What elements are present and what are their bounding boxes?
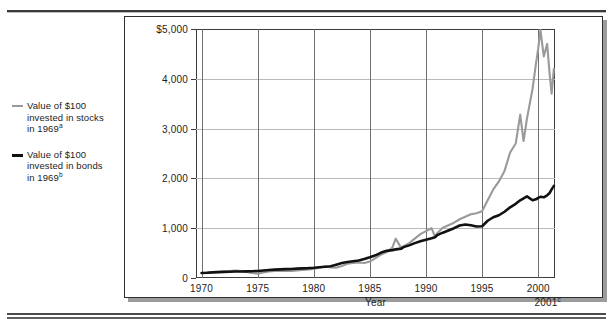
- plot-area: $5,0004,0003,0002,0001,0000 197019751980…: [196, 29, 555, 278]
- y-axis-tick-label: 3,000: [162, 123, 188, 134]
- x-axis-tick-label: 1985: [358, 283, 381, 294]
- series-line: [202, 30, 554, 274]
- legend-label-bonds: Value of $100invested in bondsin 1969b: [27, 149, 103, 184]
- page-rule-bottom-1: [7, 313, 606, 315]
- y-axis-tick-label: 1,000: [162, 223, 188, 234]
- y-axis-tick-mark: [191, 228, 196, 229]
- y-axis-tick-mark: [191, 178, 196, 179]
- x-axis-end-label: 2001c: [535, 297, 562, 308]
- legend-bonds-line1: Value of $100: [27, 149, 86, 160]
- y-axis-tick-label: $5,000: [156, 24, 188, 35]
- y-axis-tick-mark: [191, 278, 196, 279]
- y-axis-tick-mark: [191, 29, 196, 30]
- y-axis-tick-label: 0: [182, 273, 188, 284]
- page-rule-bottom-2: [7, 317, 606, 319]
- x-axis-tick-label: 1975: [246, 283, 269, 294]
- legend-stocks-line2: invested in stocks: [27, 112, 104, 123]
- chart-legend: Value of $100invested in stocksin 1969a …: [12, 100, 130, 198]
- chart-box: $5,0004,0003,0002,0001,0000 197019751980…: [124, 16, 603, 298]
- figure-page: Value of $100invested in stocksin 1969a …: [0, 0, 613, 322]
- legend-bonds-line2: invested in bonds: [27, 160, 103, 171]
- legend-bonds-line3: in 1969: [27, 172, 59, 183]
- x-axis-tick-label: 1980: [302, 283, 325, 294]
- y-axis-tick-mark: [191, 79, 196, 80]
- legend-stocks-footnote: a: [59, 122, 63, 129]
- x-axis-tick-label: 2000: [527, 283, 550, 294]
- legend-stocks-line3: in 1969: [27, 123, 59, 134]
- x-axis-tick-label: 1995: [471, 283, 494, 294]
- page-rule-top: [7, 10, 606, 13]
- legend-item-stocks: Value of $100invested in stocksin 1969a: [12, 100, 130, 135]
- legend-bonds-footnote: b: [59, 171, 63, 178]
- legend-item-bonds: Value of $100invested in bondsin 1969b: [12, 149, 130, 184]
- series-layer: [196, 29, 555, 278]
- legend-swatch-stocks-icon: [12, 105, 23, 107]
- y-axis-tick-mark: [191, 129, 196, 130]
- legend-stocks-line1: Value of $100: [27, 100, 86, 111]
- x-axis-tick-label: 1990: [414, 283, 437, 294]
- series-line: [202, 186, 554, 273]
- x-axis-title: Year: [365, 297, 386, 308]
- y-axis-tick-label: 2,000: [162, 173, 188, 184]
- legend-label-stocks: Value of $100invested in stocksin 1969a: [27, 100, 104, 135]
- y-axis-tick-label: 4,000: [162, 73, 188, 84]
- x-axis-end-label-text: 2001: [535, 297, 558, 308]
- legend-swatch-bonds-icon: [12, 154, 23, 157]
- x-axis-end-footnote: c: [558, 296, 561, 303]
- x-axis-tick-label: 1970: [190, 283, 213, 294]
